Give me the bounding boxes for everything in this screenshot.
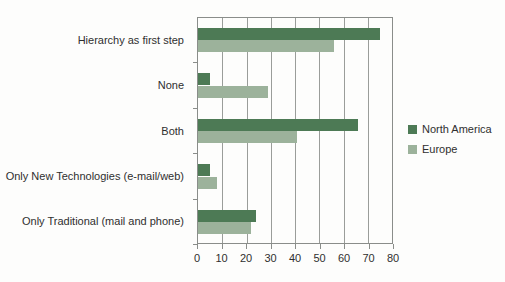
bar-europe (198, 222, 251, 234)
x-axis-ticks: 01020304050607080 (197, 244, 393, 274)
legend-item-north-america: North America (408, 123, 492, 135)
legend-item-europe: Europe (408, 143, 492, 155)
x-tick-label: 0 (194, 252, 200, 264)
category-boundary-tick (193, 153, 198, 154)
x-tick-label: 40 (289, 252, 301, 264)
legend: North AmericaEurope (408, 123, 492, 163)
category-label: None (0, 79, 184, 91)
legend-label: Europe (422, 143, 457, 155)
x-tick-label: 50 (313, 252, 325, 264)
category-label: Only Traditional (mail and phone) (0, 215, 184, 227)
legend-label: North America (422, 123, 492, 135)
x-tick-mark (271, 244, 272, 249)
x-tick-label: 10 (215, 252, 227, 264)
x-tick-mark (393, 244, 394, 249)
category-boundary-tick (193, 199, 198, 200)
x-tick-mark (320, 244, 321, 249)
x-tick-label: 70 (362, 252, 374, 264)
bar-europe (198, 177, 217, 189)
grouped-bar-chart-figure: Hierarchy as first stepNoneBothOnly New … (0, 0, 505, 282)
bar-europe (198, 86, 268, 98)
bar-north-america (198, 28, 380, 40)
bar-europe (198, 131, 297, 143)
x-tick-label: 30 (264, 252, 276, 264)
category-label: Hierarchy as first step (0, 34, 184, 46)
category-boundary-tick (193, 108, 198, 109)
category-label: Both (0, 125, 184, 137)
bar-north-america (198, 210, 256, 222)
bar-north-america (198, 119, 358, 131)
legend-swatch-icon (408, 125, 417, 134)
category-label: Only New Technologies (e-mail/web) (0, 170, 184, 182)
x-tick-mark (246, 244, 247, 249)
x-tick-label: 60 (338, 252, 350, 264)
x-tick-mark (344, 244, 345, 249)
x-tick-mark (197, 244, 198, 249)
plot-area (197, 17, 393, 244)
x-tick-mark (369, 244, 370, 249)
x-tick-mark (295, 244, 296, 249)
bar-europe (198, 40, 334, 52)
x-tick-label: 80 (387, 252, 399, 264)
x-tick-label: 20 (240, 252, 252, 264)
category-boundary-tick (193, 62, 198, 63)
bar-north-america (198, 73, 210, 85)
category-axis-labels: Hierarchy as first stepNoneBothOnly New … (0, 17, 190, 244)
legend-swatch-icon (408, 145, 417, 154)
x-tick-mark (222, 244, 223, 249)
gridline (368, 18, 369, 243)
bar-north-america (198, 164, 210, 176)
